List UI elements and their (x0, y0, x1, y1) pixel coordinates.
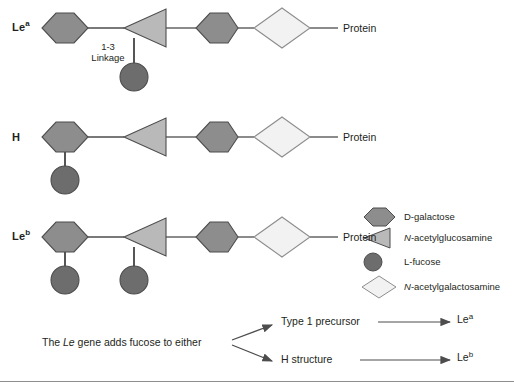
flow-branch-1-from: Type 1 precursor (281, 315, 360, 327)
shape-l-fucose-lea (120, 63, 148, 91)
shape-d-galactose-2-leb (196, 222, 238, 252)
legend-label-d-galactose: D-galactose (404, 211, 455, 222)
legend-label-n-acetylglucosamine: N-acetylglucosamine (404, 232, 492, 243)
protein-label-lea: Protein (343, 22, 376, 34)
arrow-branch-upper (232, 325, 272, 340)
shape-l-fucose-2-leb (120, 266, 148, 294)
shape-d-galactose-2-h (196, 122, 238, 152)
legend-hexagon-icon (364, 208, 395, 226)
legend-label-n-acetylgalactosamine: N-acetylgalactosamine (404, 281, 500, 292)
shape-n-acetylgalactosamine-leb (254, 217, 310, 257)
linkage-annotation: 1-3 Linkage (78, 41, 138, 63)
flow-branch-1-to: Lea (457, 313, 473, 325)
protein-label-h: Protein (343, 131, 376, 143)
row-label-leb: Leb (12, 230, 30, 242)
shape-n-acetylgalactosamine-h (254, 117, 310, 157)
flow-branch-2-to: Leb (457, 351, 473, 363)
shape-n-acetylglucosamine-leb (124, 218, 166, 256)
shape-n-acetylglucosamine-h (124, 118, 166, 156)
flow-source-text: The Le gene adds fucose to either (42, 336, 201, 348)
legend-circle-icon (364, 253, 382, 271)
shape-d-galactose-lea (42, 13, 88, 43)
protein-label-leb: Protein (343, 231, 376, 243)
flow-branch-2-from: H structure (281, 353, 332, 365)
legend-shapes (362, 208, 396, 298)
legend-label-l-fucose: L-fucose (404, 256, 440, 267)
legend-diamond-icon (362, 276, 396, 298)
flow-arrows (232, 322, 450, 361)
row-leb-structure (42, 217, 338, 294)
shape-d-galactose-leb (42, 222, 88, 252)
shape-l-fucose-h (51, 166, 79, 194)
figure-root: Lea H Leb 1-3 Linkage Protein Protein Pr… (0, 0, 514, 386)
figure-bottom-divider (0, 381, 514, 382)
shape-n-acetylgalactosamine-lea (254, 8, 310, 48)
shape-d-galactose-h (42, 122, 88, 152)
shape-l-fucose-1-leb (51, 266, 79, 294)
arrow-branch-lower (232, 345, 272, 361)
linkage-line-1: 1-3 (78, 41, 138, 52)
linkage-line-2: Linkage (78, 52, 138, 63)
row-label-lea: Lea (12, 21, 30, 33)
shape-d-galactose-2-lea (196, 13, 238, 43)
row-h-structure (42, 117, 338, 194)
row-label-h: H (12, 131, 20, 143)
